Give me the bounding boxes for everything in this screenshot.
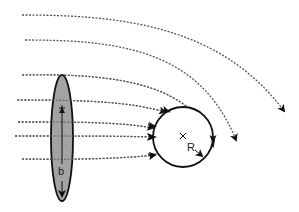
circle-body bbox=[147, 106, 216, 167]
circle-shape bbox=[153, 107, 213, 167]
streamline-overlay bbox=[17, 100, 165, 112]
circle-label-r: R bbox=[187, 141, 195, 153]
ellipse-label-b: b bbox=[58, 165, 64, 177]
streamline-overlay bbox=[18, 122, 153, 128]
flow-diagram: bR bbox=[0, 0, 299, 212]
streamline-overlay bbox=[22, 155, 155, 159]
streamline-overlay bbox=[15, 136, 153, 137]
